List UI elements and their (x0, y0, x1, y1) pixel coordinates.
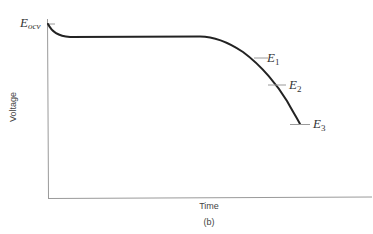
e3-label: E3 (312, 116, 326, 133)
x-axis-label: Time (199, 201, 219, 211)
e2-label: E2 (288, 77, 301, 94)
y-axis (48, 19, 49, 199)
eocv-label: Eocv (19, 15, 40, 31)
x-axis (48, 197, 372, 199)
discharge-curve (48, 24, 300, 124)
y-axis-label: Voltage (8, 92, 18, 122)
e1-label: E1 (266, 50, 279, 67)
figure-caption: (b) (204, 217, 215, 227)
discharge-chart: Eocv E1 E2 E3 Voltage Time (b) (0, 0, 373, 234)
